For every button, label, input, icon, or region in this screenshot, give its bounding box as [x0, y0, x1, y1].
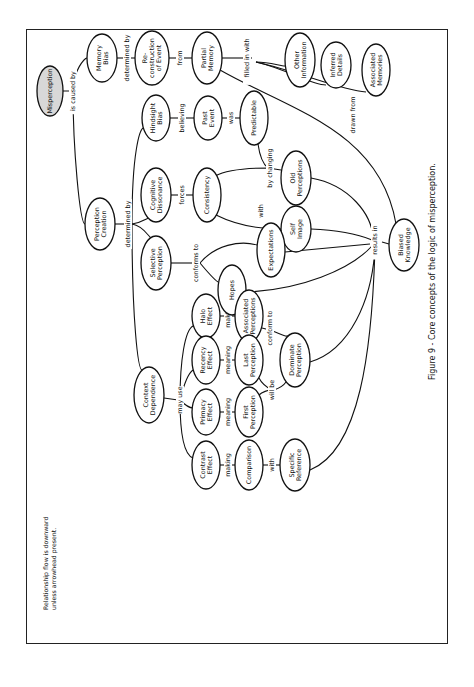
svg-text:filled in with: filled in with: [243, 38, 251, 77]
node-label: Perception: [249, 343, 257, 377]
svg-text:meaning: meaning: [224, 346, 232, 374]
svg-text:making: making: [224, 453, 232, 477]
node-label: Perception: [249, 395, 257, 429]
node-label: Event: [208, 108, 216, 127]
svg-text:determined by: determined by: [124, 200, 132, 247]
node-label: Reference: [295, 449, 303, 481]
edge-labels: is caused bydetermined byfromfilled in w…: [69, 31, 379, 477]
node-label: Effect: [206, 455, 214, 474]
node-label: Knowledge: [404, 227, 412, 262]
edge-label-conforms-to: conforms to: [192, 242, 200, 285]
node-recency-effect: RecencyEffect: [192, 336, 220, 384]
node-label: Bias: [102, 51, 110, 65]
svg-text:was: was: [227, 111, 235, 124]
edge-label-is-caused-by: is caused by: [69, 68, 77, 114]
svg-text:forces: forces: [178, 185, 186, 205]
svg-text:drawn from: drawn from: [349, 97, 357, 134]
node-cognitive-dissonance: CognitiveDissonance: [141, 168, 171, 222]
node-inferred-details: InferredDetails: [321, 42, 351, 88]
node-associated-perceptions: AssociatedPerceptions: [235, 290, 263, 342]
edge-label-with-self: with: [257, 203, 265, 220]
node-label: Perceptions: [249, 297, 257, 335]
svg-text:from: from: [176, 51, 184, 66]
edge-label-believing: believing: [178, 100, 186, 135]
node-other-information: OtherInformation: [285, 33, 315, 87]
edge-conforms-to-hopes: [200, 263, 218, 282]
node-context-dependence: ContextDependence: [134, 367, 164, 423]
svg-text:results in: results in: [371, 225, 379, 254]
node-consistency: Consistency: [193, 168, 221, 222]
node-label: Dependence: [149, 375, 157, 415]
svg-text:determined by: determined by: [123, 34, 131, 81]
svg-text:is caused by: is caused by: [69, 71, 77, 111]
edge-determined-to-selective: [132, 224, 152, 238]
node-last-perception: LastPerception: [235, 335, 263, 385]
node-primacy-effect: PrimacyEffect: [192, 389, 220, 435]
edge-label-meaning-recency: meaning: [224, 346, 232, 374]
edge-label-drawn-from: drawn from: [349, 96, 357, 135]
edge-label-will-be: will be: [268, 376, 276, 404]
node-selective-perception: SelectivePerception: [141, 236, 171, 290]
svg-text:believing: believing: [178, 103, 186, 132]
node-label: Information: [300, 42, 308, 79]
svg-text:by changing: by changing: [266, 148, 274, 187]
node-partial-memory: PartialMemory: [192, 32, 222, 84]
node-label: Effect: [206, 350, 214, 369]
node-halo-effect: HaloEffect: [192, 294, 220, 338]
node-label: Image: [296, 219, 304, 239]
node-associated-memories: AssociatedMemories: [362, 44, 390, 96]
svg-text:meaning: meaning: [224, 398, 232, 426]
node-label: Memories: [376, 54, 384, 86]
node-contrast-effect: ContrastEffect: [192, 441, 220, 489]
node-memory-bias: MemoryBias: [87, 34, 117, 82]
node-first-perception: FirstPerception: [235, 387, 263, 437]
edge-label-determined-by-perception: determined by: [124, 199, 132, 249]
node-dominate-perception: DominatePerception: [280, 333, 310, 387]
node-label: Perception: [156, 246, 164, 280]
node-label: Hopes: [228, 279, 236, 300]
node-perception-creation: PerceptionCreation: [85, 198, 115, 250]
node-label: Effect: [206, 306, 214, 325]
svg-text:conform to: conform to: [266, 311, 274, 346]
legend-note-line2: unless arrowhead present.: [50, 528, 58, 610]
edge-label-conform-to: conform to: [266, 309, 274, 348]
node-old-perceptions: OldPerceptions: [281, 151, 311, 205]
concept-map: is caused bydetermined byfromfilled in w…: [0, 0, 474, 687]
node-label: Details: [336, 53, 344, 76]
edge-label-may-use: may use: [176, 386, 184, 414]
edge-label-making-contrast: making: [224, 453, 232, 477]
node-biased-knowledge: BiasedKnowledge: [389, 219, 419, 271]
node-comparison: Comparison: [235, 440, 263, 490]
figure-caption: Figure 9 - Core concepts of the logic of…: [428, 163, 437, 380]
node-label: Predictable: [250, 100, 258, 136]
edge-label-from: from: [176, 50, 184, 67]
edge-self-image-to-results: [311, 229, 372, 240]
edge-label-determined-by-memory: determined by: [123, 33, 131, 83]
svg-text:may use: may use: [176, 386, 184, 413]
edge-label-filled-in-with: filled in with: [243, 31, 251, 85]
node-predictable: Predictable: [240, 91, 268, 145]
edge-conforms-to-expectations: [200, 243, 257, 263]
node-label: Perception: [295, 343, 303, 377]
node-label: Misperception: [46, 69, 54, 114]
edge-determined-to-hindsight: [132, 128, 143, 224]
svg-text:conforms to: conforms to: [192, 244, 200, 282]
node-label: Perceptions: [296, 159, 304, 197]
node-specific-reference: SpecificReference: [280, 439, 310, 491]
node-self-image: SelfImage: [281, 206, 311, 252]
edge-label-with-comparison: with: [268, 457, 276, 474]
edge-label-by-changing: by changing: [266, 147, 274, 190]
edge-determined-to-context: [132, 224, 142, 370]
node-label: Expectations: [267, 229, 275, 271]
node-past-event: PastEvent: [194, 96, 222, 140]
svg-text:with: with: [268, 458, 276, 472]
svg-text:will be: will be: [268, 380, 276, 401]
edge-dominate-to-results: [310, 248, 375, 362]
edge-specific-to-results: [310, 248, 375, 470]
node-misperception: Misperception: [37, 66, 63, 116]
edge-label-was: was: [227, 111, 235, 124]
edge-label-results-in: results in: [371, 221, 379, 260]
legend-note-line1: Relationship flow is downward: [42, 516, 50, 610]
node-label: Dissonance: [156, 177, 164, 214]
node-label: Bias: [156, 111, 164, 125]
